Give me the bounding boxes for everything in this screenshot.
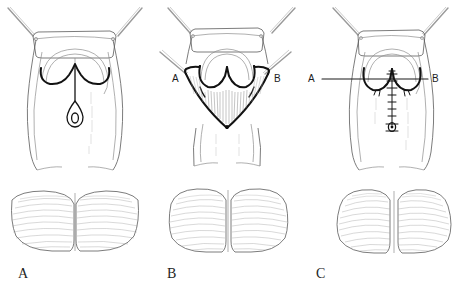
figure-background <box>0 0 457 287</box>
caption-c: C <box>316 266 325 281</box>
caption-a: A <box>18 266 29 281</box>
line-point-b-label: B <box>432 73 439 84</box>
surgical-figure: A B <box>0 0 457 287</box>
flap-apex-marker-b <box>225 125 229 129</box>
flap-point-b-label: B <box>274 73 281 84</box>
line-point-a-label: A <box>308 73 315 84</box>
figure-canvas: A B <box>0 0 457 287</box>
flap-point-a-label: A <box>172 73 179 84</box>
caption-b: B <box>167 266 176 281</box>
